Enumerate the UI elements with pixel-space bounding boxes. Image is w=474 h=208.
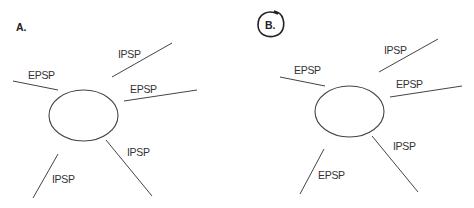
panel-b-synapse-lower-right-label: IPSP: [393, 140, 416, 152]
panel-a-synapse-upper-left: [13, 81, 58, 90]
panel-a-synapse-upper-label: IPSP: [118, 48, 141, 60]
panel-b-synapse-upper-label: IPSP: [384, 44, 407, 56]
panel-b-synapse-right-label: EPSP: [396, 78, 423, 90]
panel-a-synapse-right-label: EPSP: [130, 83, 157, 95]
panel-b-synapse-upper-left-label: EPSP: [294, 64, 321, 76]
panel-a-cell-body: [49, 90, 118, 141]
panel-a-synapse-upper-left-label: EPSP: [28, 69, 55, 81]
panel-b: B. EPSP IPSP EPSP IPSP EPSP: [258, 11, 462, 194]
panel-a: A. EPSP IPSP EPSP IPSP IPSP: [13, 21, 197, 198]
neuron-diagram: A. EPSP IPSP EPSP IPSP IPSP B. EPSP IPSP…: [0, 0, 474, 208]
panel-a-synapse-lower-right-label: IPSP: [127, 146, 150, 158]
panel-b-cell-body: [315, 86, 384, 137]
panel-b-label: B.: [265, 19, 276, 31]
panel-b-synapse-lower-left-label: EPSP: [318, 169, 345, 181]
panel-a-synapse-lower-left-label: IPSP: [52, 173, 75, 185]
panel-a-label: A.: [16, 21, 27, 33]
panel-b-synapse-upper-left: [280, 77, 325, 86]
